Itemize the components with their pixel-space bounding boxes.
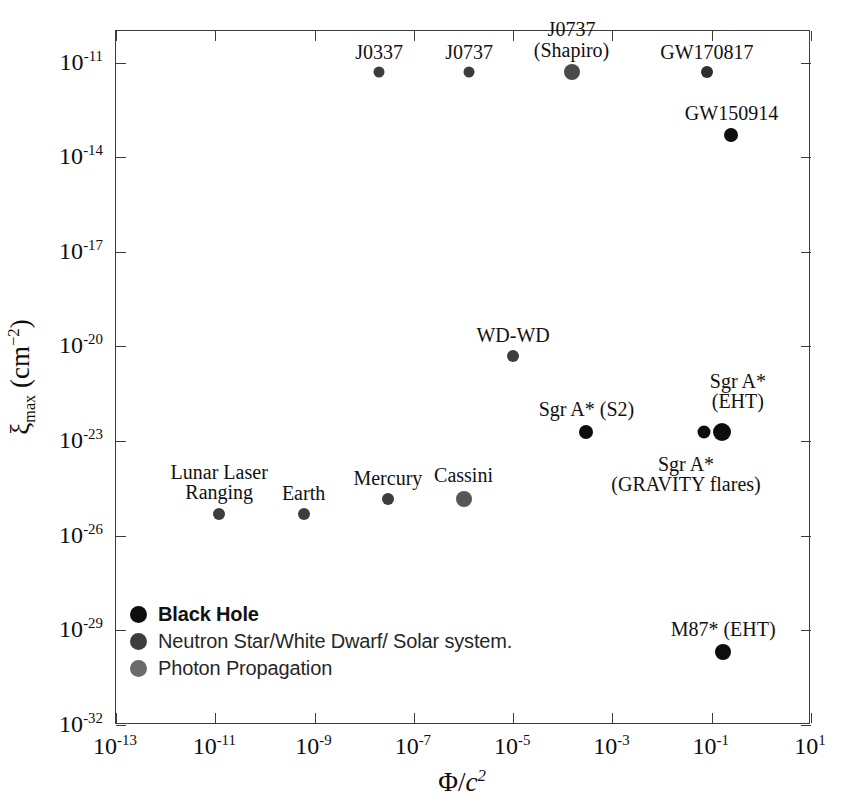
point-label-line: Earth (282, 483, 325, 504)
scatter-point[interactable] (374, 67, 385, 78)
scatter-point[interactable] (298, 508, 310, 520)
scatter-point[interactable] (579, 425, 593, 439)
point-label: Sgr A*(EHT) (710, 371, 766, 413)
scatter-point[interactable] (456, 491, 472, 507)
point-label-line: J0737 (445, 42, 493, 63)
scatter-point[interactable] (724, 128, 738, 142)
legend-marker-icon (130, 606, 147, 623)
point-label: Sgr A*(GRAVITY flares) (611, 454, 760, 496)
x-tick-label: 101 (794, 732, 825, 760)
point-label: Earth (282, 483, 325, 504)
y-tick-mark (116, 252, 126, 253)
x-tick-mark (712, 713, 713, 723)
point-label-line: (Shapiro) (534, 40, 610, 61)
scatter-point[interactable] (382, 493, 394, 505)
scatter-point[interactable] (698, 425, 711, 438)
x-tick-mantissa: 10 (593, 733, 617, 759)
point-label: M87* (EHT) (671, 619, 776, 640)
plot-area: J0337J0737J0737(Shapiro)GW170817GW150914… (115, 30, 810, 724)
y-tick-mark (116, 346, 126, 347)
point-label: Cassini (434, 465, 493, 486)
legend-label: Photon Propagation (158, 657, 332, 680)
scatter-point[interactable] (564, 64, 580, 80)
y-tick-label: 10-20 (59, 331, 103, 359)
y-tick-mark-right (801, 157, 811, 158)
x-axis-title: Φ/c2 (438, 766, 486, 798)
legend-item[interactable]: Black Hole (130, 601, 512, 628)
x-tick-mantissa: 10 (193, 733, 217, 759)
y-tick-label: 10-26 (59, 521, 103, 549)
x-tick-mark-top (513, 31, 514, 41)
x-tick-exponent: -9 (319, 732, 331, 748)
y-axis-title-wrap: ξmax (cm−2) (0, 0, 44, 810)
y-tick-mantissa: 10 (59, 238, 83, 264)
x-tick-exponent: -11 (217, 732, 236, 748)
y-tick-mantissa: 10 (59, 332, 83, 358)
point-label-line: GW170817 (660, 42, 753, 63)
y-tick-exponent: -32 (83, 710, 103, 726)
x-tick-mark (612, 713, 613, 723)
x-tick-label: 10-3 (593, 732, 629, 760)
y-tick-exponent: -11 (84, 48, 103, 64)
x-tick-mantissa: 10 (395, 733, 419, 759)
point-label-line: Sgr A* (S2) (539, 399, 635, 420)
scatter-point[interactable] (464, 67, 475, 78)
y-tick-mark (116, 630, 126, 631)
y-tick-label: 10-23 (59, 426, 103, 454)
x-tick-exponent: -7 (419, 732, 431, 748)
y-tick-mark-right (801, 346, 811, 347)
y-tick-exponent: -14 (83, 142, 103, 158)
y-tick-mantissa: 10 (59, 616, 83, 642)
y-tick-label: 10-29 (59, 615, 103, 643)
point-label: GW170817 (660, 42, 753, 63)
y-tick-mark-right (801, 441, 811, 442)
x-tick-mantissa: 10 (693, 733, 717, 759)
y-tick-mantissa: 10 (59, 711, 83, 737)
point-label-line: (GRAVITY flares) (611, 474, 760, 495)
legend-item[interactable]: Photon Propagation (130, 655, 512, 682)
y-tick-mark (116, 441, 126, 442)
y-tick-mantissa: 10 (59, 427, 83, 453)
y-tick-mark-right (801, 630, 811, 631)
legend-label: Black Hole (158, 603, 259, 626)
legend-marker-icon (130, 660, 147, 677)
x-tick-mark-top (315, 31, 316, 41)
x-tick-mark-top (811, 31, 812, 41)
x-tick-exponent: -13 (117, 732, 137, 748)
x-tick-mantissa: 10 (93, 733, 117, 759)
point-label-line: (EHT) (710, 391, 766, 412)
scatter-point[interactable] (701, 66, 713, 78)
x-tick-mark (116, 713, 117, 723)
y-axis-title-symbol: ξ (5, 423, 35, 435)
x-tick-mark (513, 713, 514, 723)
point-label-line: Sgr A* (710, 371, 766, 392)
x-tick-mantissa: 10 (494, 733, 518, 759)
scatter-point[interactable] (507, 350, 519, 362)
y-tick-mark (116, 725, 126, 726)
x-tick-label: 10-7 (395, 732, 431, 760)
scatter-point[interactable] (213, 508, 225, 520)
point-label-line: WD-WD (476, 325, 549, 346)
x-tick-mark (315, 713, 316, 723)
point-label-line: J0737 (534, 19, 610, 40)
x-tick-mantissa: 10 (295, 733, 319, 759)
x-tick-mark-top (215, 31, 216, 41)
scatter-point[interactable] (713, 423, 731, 441)
x-axis-title-c: c (465, 767, 477, 797)
y-axis-title-unit-close: ) (5, 319, 35, 328)
y-tick-exponent: -17 (83, 237, 103, 253)
x-axis-title-exponent: 2 (477, 766, 485, 785)
x-tick-mark (811, 713, 812, 723)
x-tick-mantissa: 10 (794, 733, 818, 759)
y-tick-mantissa: 10 (59, 522, 83, 548)
y-tick-mark (116, 536, 126, 537)
x-tick-mark-top (116, 31, 117, 41)
point-label: J0337 (355, 42, 403, 63)
legend-label: Neutron Star/White Dwarf/ Solar system. (158, 630, 512, 653)
scatter-point[interactable] (715, 644, 731, 660)
x-tick-label: 10-9 (295, 732, 331, 760)
point-label-line: Ranging (171, 482, 268, 503)
y-axis-title-unit-exponent: −2 (4, 328, 23, 346)
legend-item[interactable]: Neutron Star/White Dwarf/ Solar system. (130, 628, 512, 655)
point-label-line: Sgr A* (611, 454, 760, 475)
